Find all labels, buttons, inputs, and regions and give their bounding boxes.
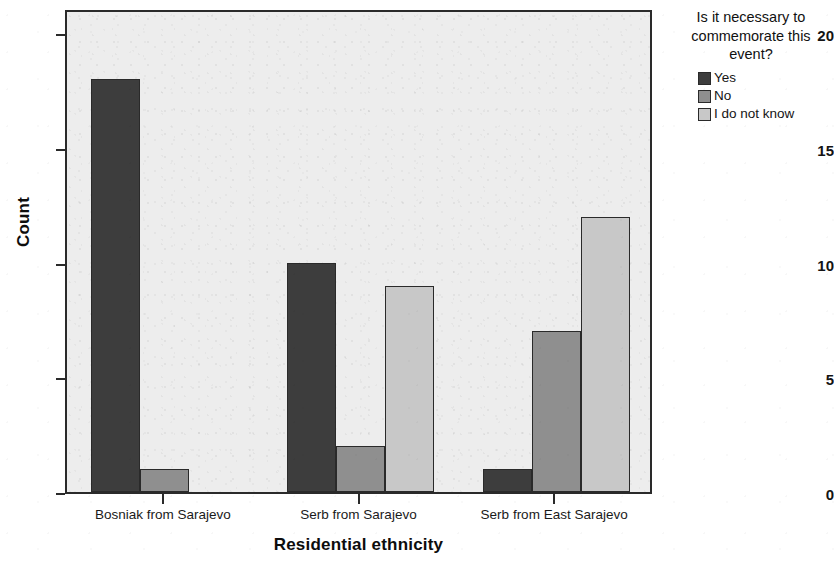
y-axis-tick-mark bbox=[56, 34, 65, 36]
x-axis-tick-label: Serb from Sarajevo bbox=[262, 508, 456, 523]
legend-items: YesNoI do not know bbox=[698, 70, 834, 123]
x-axis-tick-label: Serb from East Sarajevo bbox=[457, 508, 651, 523]
legend-item: No bbox=[698, 88, 834, 105]
legend-item-label: No bbox=[714, 89, 731, 103]
y-axis-tick-mark bbox=[56, 493, 65, 495]
legend: Is it necessary to commemorate this even… bbox=[668, 8, 834, 124]
legend-title-line-2: commemorate this bbox=[668, 27, 834, 46]
y-axis-tick-mark bbox=[56, 149, 65, 151]
legend-item: Yes bbox=[698, 70, 834, 87]
legend-item-label: I do not know bbox=[714, 107, 794, 121]
bar bbox=[532, 331, 581, 492]
x-axis-tick-mark bbox=[162, 494, 164, 504]
legend-title-line-1: Is it necessary to bbox=[668, 8, 834, 27]
bar bbox=[336, 446, 385, 492]
legend-swatch-icon bbox=[698, 108, 711, 121]
legend-title-line-3: event? bbox=[668, 45, 834, 64]
y-axis-tick-label: 0 bbox=[800, 487, 834, 502]
legend-title: Is it necessary to commemorate this even… bbox=[668, 8, 834, 64]
legend-swatch-icon bbox=[698, 72, 711, 85]
legend-swatch-icon bbox=[698, 90, 711, 103]
bar bbox=[581, 217, 630, 492]
y-axis-tick-label: 15 bbox=[800, 143, 834, 158]
bar bbox=[483, 469, 532, 492]
y-axis-tick-label: 5 bbox=[800, 372, 834, 387]
legend-item: I do not know bbox=[698, 106, 834, 123]
x-axis-tick-mark bbox=[553, 494, 555, 504]
bar bbox=[140, 469, 189, 492]
y-axis-tick-mark bbox=[56, 378, 65, 380]
x-axis-tick-mark bbox=[358, 494, 360, 504]
bar bbox=[287, 263, 336, 492]
bar-chart-figure: 05101520 Count Bosniak from SarajevoSerb… bbox=[0, 0, 834, 561]
x-axis-tick-label: Bosniak from Sarajevo bbox=[66, 508, 260, 523]
y-axis-title: Count bbox=[14, 142, 34, 302]
legend-item-label: Yes bbox=[714, 71, 736, 85]
y-axis-tick-label: 10 bbox=[800, 258, 834, 273]
y-axis-tick-mark bbox=[56, 264, 65, 266]
plot-area bbox=[65, 10, 652, 494]
bar bbox=[91, 79, 140, 492]
x-axis-title: Residential ethnicity bbox=[65, 535, 652, 555]
bar bbox=[385, 286, 434, 492]
